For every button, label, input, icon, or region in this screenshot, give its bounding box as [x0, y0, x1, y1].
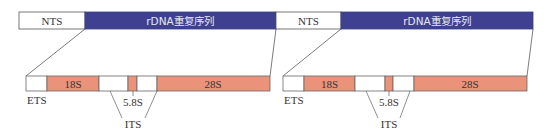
- rdna-label-1: rDNA重复序列: [146, 15, 213, 27]
- its-pointer-left: [110, 91, 122, 118]
- 5-8s-label: 5.8S: [123, 96, 143, 108]
- expansion-line-2-right: [527, 29, 533, 76]
- expansion-lines: [26, 29, 533, 76]
- ets-segment: [283, 76, 304, 91]
- rdna-label-2: rDNA重复序列: [403, 15, 470, 27]
- its-pointer-right: [145, 91, 157, 118]
- rrna-18s-label: 18S: [321, 78, 338, 90]
- nts-label-2: NTS: [298, 15, 319, 27]
- expansion-line-1-left: [26, 29, 85, 76]
- rrna-5-8s-segment: [385, 76, 393, 91]
- 5-8s-label: 5.8S: [379, 96, 399, 108]
- its-pointer-left: [366, 91, 378, 118]
- its2-segment: [137, 76, 157, 91]
- top-repeat-bar: NTS rDNA重复序列 NTS rDNA重复序列: [19, 12, 533, 29]
- ets-segment: [26, 76, 47, 91]
- its1-segment: [99, 76, 128, 91]
- its1-segment: [355, 76, 385, 91]
- its-label: ITS: [381, 118, 398, 130]
- its-label: ITS: [125, 118, 142, 130]
- rrna-28s-label: 28S: [204, 78, 221, 90]
- rdna-structure-diagram: NTS rDNA重复序列 NTS rDNA重复序列 18S 28S ETS 5.…: [0, 0, 550, 140]
- nts-label-1: NTS: [42, 15, 63, 27]
- its2-segment: [393, 76, 414, 91]
- ets-label: ETS: [284, 94, 304, 106]
- rrna-28s-label: 28S: [461, 78, 478, 90]
- transcription-unit-2: 18S 28S ETS 5.8S ITS: [283, 76, 527, 130]
- its-pointer-right: [400, 91, 410, 118]
- rrna-5-8s-segment: [128, 76, 137, 91]
- ets-label: ETS: [27, 94, 47, 106]
- expansion-line-2-left: [283, 29, 341, 76]
- expansion-line-1-right: [270, 29, 276, 76]
- transcription-unit-1: 18S 28S ETS 5.8S ITS: [26, 76, 270, 130]
- rrna-18s-label: 18S: [64, 78, 81, 90]
